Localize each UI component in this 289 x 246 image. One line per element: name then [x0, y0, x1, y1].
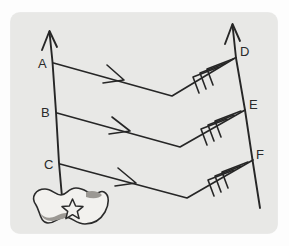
figure-root: A B C D E F: [0, 0, 289, 246]
island: [34, 188, 109, 224]
label-a: A: [38, 56, 47, 71]
label-c: C: [44, 157, 53, 172]
label-d: D: [240, 44, 249, 59]
label-f: F: [256, 147, 264, 162]
diagram-canvas: A B C D E F: [0, 0, 289, 246]
label-e: E: [249, 97, 258, 112]
label-b: B: [41, 105, 50, 120]
